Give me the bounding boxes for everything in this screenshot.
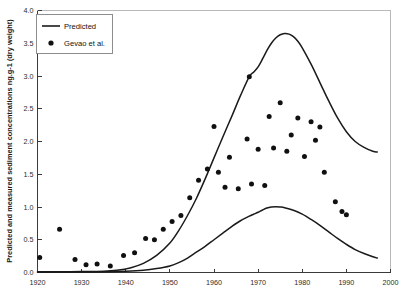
series-line-predicted bbox=[38, 33, 378, 271]
x-tick-label: 2000 bbox=[383, 278, 399, 287]
y-tick-label: 2.5 bbox=[24, 104, 34, 113]
data-point bbox=[205, 167, 210, 172]
data-point bbox=[284, 149, 289, 154]
data-point bbox=[132, 250, 137, 255]
data-point bbox=[256, 147, 261, 152]
data-point bbox=[178, 213, 183, 218]
data-point bbox=[196, 178, 201, 183]
x-tick-label: 1940 bbox=[118, 278, 134, 287]
chart-legend: Predicted Gevao et al. bbox=[37, 15, 113, 54]
data-point bbox=[317, 125, 322, 130]
data-point bbox=[247, 74, 252, 79]
x-tick-label: 1930 bbox=[74, 278, 90, 287]
y-axis-title: Predicted and measured sediment concentr… bbox=[5, 19, 14, 263]
data-point bbox=[339, 209, 344, 214]
data-point bbox=[344, 212, 349, 217]
data-point bbox=[223, 185, 228, 190]
chart-page: 0.00.51.01.52.02.53.03.54.0 192019301940… bbox=[0, 0, 402, 301]
data-point bbox=[161, 227, 166, 232]
data-point bbox=[262, 183, 267, 188]
y-tick-label: 3.0 bbox=[24, 72, 34, 81]
data-point bbox=[227, 155, 232, 160]
data-point bbox=[121, 253, 126, 258]
data-point bbox=[236, 186, 241, 191]
data-point bbox=[267, 114, 272, 119]
data-point bbox=[245, 136, 250, 141]
legend-label-gevao: Gevao et al. bbox=[64, 39, 105, 48]
data-point bbox=[278, 100, 283, 105]
data-point bbox=[152, 237, 157, 242]
data-point bbox=[95, 261, 100, 266]
sediment-concentration-chart: 0.00.51.01.52.02.53.03.54.0 192019301940… bbox=[0, 0, 402, 301]
data-point bbox=[187, 195, 192, 200]
data-point bbox=[37, 255, 42, 260]
data-point bbox=[170, 219, 175, 224]
data-point bbox=[313, 138, 318, 143]
data-point bbox=[309, 119, 314, 124]
data-point bbox=[249, 182, 254, 187]
legend-box bbox=[37, 15, 113, 54]
data-point bbox=[84, 262, 89, 267]
y-tick-label: 2.0 bbox=[24, 137, 34, 146]
legend-dot-swatch bbox=[48, 40, 53, 45]
data-point bbox=[322, 170, 327, 175]
y-tick-label: 3.5 bbox=[24, 39, 34, 48]
series-line-predicted-lower bbox=[38, 207, 378, 273]
data-point bbox=[271, 146, 276, 151]
legend-label-predicted: Predicted bbox=[64, 22, 96, 31]
x-tick-label: 1980 bbox=[294, 278, 310, 287]
data-point bbox=[302, 154, 307, 159]
data-point bbox=[108, 263, 113, 268]
data-point bbox=[295, 115, 300, 120]
y-tick-label: 0.5 bbox=[24, 235, 34, 244]
x-tick-label: 1990 bbox=[338, 278, 354, 287]
data-point bbox=[216, 170, 221, 175]
data-point bbox=[143, 236, 148, 241]
x-tick-label: 1950 bbox=[162, 278, 178, 287]
y-tick-label: 1.5 bbox=[24, 170, 34, 179]
x-tick-label: 1970 bbox=[250, 278, 266, 287]
data-point bbox=[73, 257, 78, 262]
x-tick-label: 1960 bbox=[206, 278, 222, 287]
data-point bbox=[333, 199, 338, 204]
y-tick-label: 0.0 bbox=[24, 268, 34, 277]
data-point bbox=[57, 227, 62, 232]
x-tick-label: 1920 bbox=[30, 278, 46, 287]
data-point bbox=[289, 132, 294, 137]
series-layer bbox=[38, 33, 378, 272]
y-tick-label: 1.0 bbox=[24, 203, 34, 212]
data-point bbox=[212, 124, 217, 129]
y-tick-label: 4.0 bbox=[24, 6, 34, 15]
data-points-layer bbox=[37, 74, 349, 268]
